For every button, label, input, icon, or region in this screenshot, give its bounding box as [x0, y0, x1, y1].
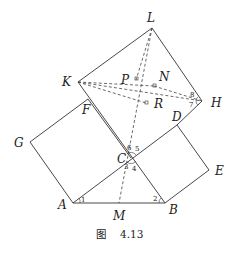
angle-label-7: 7 [189, 101, 193, 109]
dashed-KH [78, 82, 202, 101]
label-G: G [14, 136, 24, 150]
segment-BK [78, 82, 165, 203]
segment-LH [152, 28, 202, 101]
angle-label-5: 5 [135, 145, 139, 153]
angle-label-1: 1 [81, 196, 85, 204]
square-CBED [165, 125, 209, 203]
angle-label-8: 8 [190, 91, 194, 99]
label-H: H [210, 96, 222, 110]
label-R: R [153, 97, 163, 111]
angle-label-6: 6 [127, 144, 132, 152]
label-F: F [81, 103, 91, 117]
square-ACFG [30, 99, 131, 203]
angle-arc-2 [159, 198, 161, 203]
angle-label-4: 4 [132, 165, 137, 173]
angle-label-2: 2 [153, 195, 157, 203]
angle-arc-H [196, 97, 198, 105]
label-D: D [171, 110, 182, 124]
dashed-LM [119, 28, 152, 203]
label-M: M [112, 209, 126, 223]
angle-label-3: 3 [124, 163, 128, 171]
label-N: N [158, 70, 170, 84]
label-L: L [146, 11, 155, 25]
label-K: K [61, 75, 72, 89]
label-B: B [168, 203, 178, 217]
angle-arc-1 [79, 198, 80, 203]
geometry-figure: L K P N R H F D G C E A M B 1 2 3 4 5 6 … [0, 0, 235, 258]
figure-caption-number: 4.13 [120, 228, 143, 240]
figure-caption-prefix: 图 [96, 228, 106, 240]
label-A: A [57, 198, 67, 212]
label-P: P [120, 73, 130, 87]
label-E: E [214, 164, 224, 178]
dashed-LP [136, 28, 152, 80]
segment-KL [78, 28, 152, 82]
